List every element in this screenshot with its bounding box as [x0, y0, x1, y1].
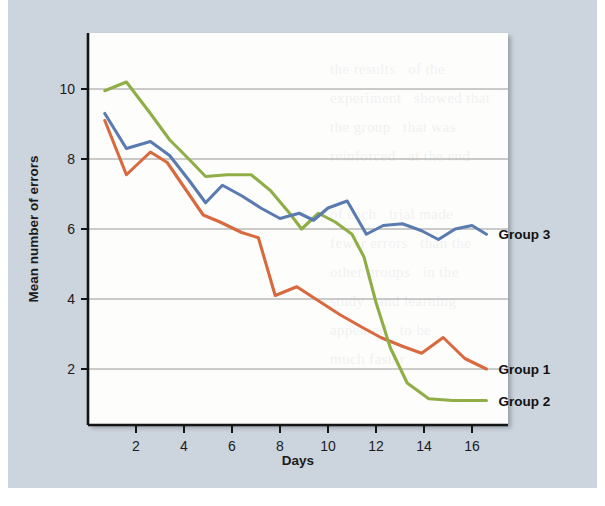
y-tick-label: 4 [67, 291, 75, 307]
series-line-group-1 [105, 121, 487, 370]
series-label-group-1: Group 1 [498, 362, 550, 377]
x-tick-label: 6 [228, 438, 236, 454]
figure-page: the results of the experiment showed tha… [0, 0, 605, 506]
series-label-group: Group 3Group 1Group 2 [498, 227, 550, 408]
x-axis-ticks: 246810121416 [132, 425, 480, 454]
x-tick-label: 14 [416, 438, 432, 454]
y-axis-ticks: 246810 [59, 81, 88, 377]
series-line-group-2 [105, 82, 487, 401]
y-axis-title: Mean number of errors [26, 155, 41, 302]
gridlines-group [88, 89, 508, 369]
x-tick-label: 16 [464, 438, 480, 454]
y-tick-label: 2 [67, 361, 75, 377]
x-tick-label: 10 [320, 438, 336, 454]
y-tick-label: 8 [67, 151, 75, 167]
y-tick-label: 6 [67, 221, 75, 237]
x-tick-label: 2 [132, 438, 140, 454]
x-axis-title: Days [282, 453, 314, 468]
x-tick-label: 8 [276, 438, 284, 454]
x-tick-label: 12 [368, 438, 384, 454]
line-chart: 246810 246810121416 Group 3Group 1Group … [0, 0, 605, 506]
data-series-group [105, 82, 487, 401]
series-label-group-2: Group 2 [498, 394, 550, 409]
series-label-group-3: Group 3 [498, 227, 550, 242]
x-tick-label: 4 [180, 438, 188, 454]
y-tick-label: 10 [59, 81, 75, 97]
